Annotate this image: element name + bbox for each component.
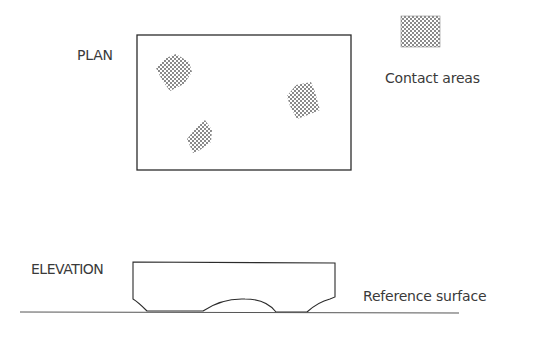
elevation-label: ELEVATION	[31, 261, 103, 277]
contact-patch-top-left	[156, 54, 192, 91]
contact-areas-diagram: PLAN Contact areas ELEVATION Reference s…	[0, 0, 545, 357]
contact-patch-right	[287, 82, 320, 119]
elevation-outline	[133, 262, 335, 312]
legend-label: Contact areas	[385, 70, 480, 86]
reference-surface-label: Reference surface	[363, 288, 486, 304]
legend-swatch	[401, 16, 440, 47]
plan-label: PLAN	[77, 47, 113, 63]
contact-patch-bottom-middle	[187, 120, 212, 153]
plan-outline	[137, 35, 351, 170]
reference-surface-line	[20, 312, 459, 313]
